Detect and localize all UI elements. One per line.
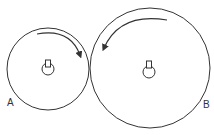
rotation-arrow-a xyxy=(37,33,80,55)
wheel-a: A xyxy=(7,28,89,110)
wheels-diagram: A B xyxy=(0,0,214,135)
label-a: A xyxy=(7,97,14,108)
wheel-b: B xyxy=(90,8,210,128)
key-b xyxy=(147,61,152,68)
label-b: B xyxy=(203,99,210,110)
key-a xyxy=(46,60,51,67)
rotation-arrow-b xyxy=(104,19,167,48)
